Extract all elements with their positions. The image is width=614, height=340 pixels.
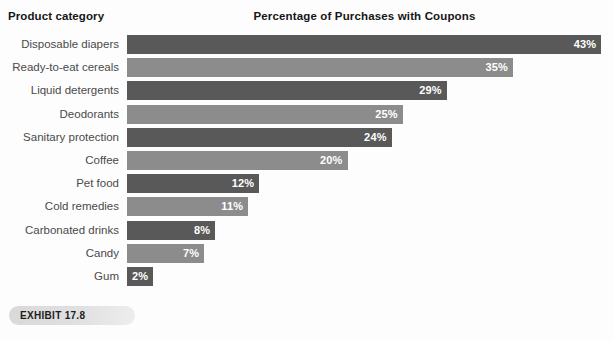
bar-value-label: 7% bbox=[183, 244, 199, 263]
bar: 35% bbox=[127, 58, 513, 77]
bar-track: 20% bbox=[127, 149, 348, 172]
category-label: Carbonated drinks bbox=[0, 219, 119, 242]
bar: 8% bbox=[127, 221, 215, 240]
bar-row: Coffee20% bbox=[0, 149, 614, 172]
bar-row: Gum2% bbox=[0, 265, 614, 288]
bar-track: 29% bbox=[127, 79, 447, 102]
bar-row: Liquid detergents29% bbox=[0, 79, 614, 102]
bar-row: Ready-to-eat cereals35% bbox=[0, 56, 614, 79]
bar-row: Pet food12% bbox=[0, 172, 614, 195]
plot-area: Disposable diapers43%Ready-to-eat cereal… bbox=[0, 33, 614, 295]
category-label: Gum bbox=[0, 265, 119, 288]
bar-value-label: 20% bbox=[320, 151, 343, 170]
bar-row: Carbonated drinks8% bbox=[0, 219, 614, 242]
bar-track: 35% bbox=[127, 56, 513, 79]
bar-track: 7% bbox=[127, 242, 204, 265]
bar-track: 8% bbox=[127, 219, 215, 242]
bar-value-label: 2% bbox=[132, 267, 148, 286]
bar-value-label: 12% bbox=[232, 174, 255, 193]
bar-row: Deodorants25% bbox=[0, 103, 614, 126]
exhibit-chart: Product category Percentage of Purchases… bbox=[0, 0, 614, 340]
category-label: Ready-to-eat cereals bbox=[0, 56, 119, 79]
chart-title: Percentage of Purchases with Coupons bbox=[127, 8, 602, 24]
bar: 24% bbox=[127, 128, 392, 147]
bar: 12% bbox=[127, 174, 259, 193]
bar-row: Sanitary protection24% bbox=[0, 126, 614, 149]
bar-track: 24% bbox=[127, 126, 392, 149]
bar-track: 43% bbox=[127, 33, 601, 56]
bar-track: 11% bbox=[127, 195, 248, 218]
bar-track: 12% bbox=[127, 172, 259, 195]
chart-header: Product category Percentage of Purchases… bbox=[0, 8, 614, 28]
bar-track: 25% bbox=[127, 103, 403, 126]
bar: 2% bbox=[127, 267, 153, 286]
category-label: Candy bbox=[0, 242, 119, 265]
bar: 11% bbox=[127, 197, 248, 216]
category-label: Cold remedies bbox=[0, 195, 119, 218]
bar-row: Disposable diapers43% bbox=[0, 33, 614, 56]
exhibit-label: EXHIBIT 17.8 bbox=[20, 306, 85, 325]
bar-value-label: 35% bbox=[485, 58, 508, 77]
bar-value-label: 11% bbox=[221, 197, 243, 216]
category-label: Pet food bbox=[0, 172, 119, 195]
bar-track: 2% bbox=[127, 265, 153, 288]
bar: 25% bbox=[127, 105, 403, 124]
bar: 7% bbox=[127, 244, 204, 263]
bar-value-label: 8% bbox=[194, 221, 210, 240]
bar: 43% bbox=[127, 35, 601, 54]
category-label: Liquid detergents bbox=[0, 79, 119, 102]
category-label: Deodorants bbox=[0, 103, 119, 126]
bar-value-label: 29% bbox=[419, 81, 442, 100]
bar-value-label: 43% bbox=[574, 35, 597, 54]
exhibit-badge: EXHIBIT 17.8 bbox=[9, 306, 135, 325]
bar-value-label: 24% bbox=[364, 128, 387, 147]
category-axis-title: Product category bbox=[8, 8, 120, 24]
category-label: Disposable diapers bbox=[0, 33, 119, 56]
bar-value-label: 25% bbox=[375, 105, 398, 124]
bar: 20% bbox=[127, 151, 348, 170]
bar-row: Cold remedies11% bbox=[0, 195, 614, 218]
bar: 29% bbox=[127, 81, 447, 100]
category-label: Sanitary protection bbox=[0, 126, 119, 149]
category-label: Coffee bbox=[0, 149, 119, 172]
bar-row: Candy7% bbox=[0, 242, 614, 265]
